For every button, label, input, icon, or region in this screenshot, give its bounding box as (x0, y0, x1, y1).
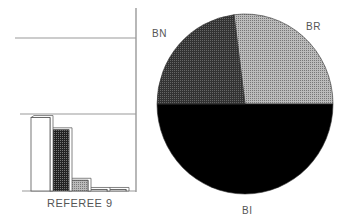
chart-canvas (0, 0, 344, 224)
pie-slice-bi (157, 104, 333, 194)
bar-chart (15, 8, 136, 192)
bar (31, 116, 53, 191)
pie-label-bn: BN (152, 28, 167, 39)
pie-slice-bn (157, 15, 245, 104)
bar-chart-caption: REFEREE 9 (47, 197, 113, 209)
pie-label-br: BR (306, 21, 321, 32)
pie-chart (157, 14, 333, 194)
pie-label-bi: BI (242, 205, 252, 216)
